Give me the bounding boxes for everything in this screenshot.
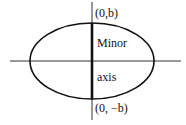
bottom-point-label: (0, −b) — [95, 101, 128, 115]
top-point-label: (0,b) — [95, 6, 118, 20]
axis-label: axis — [97, 70, 117, 84]
minor-label: Minor — [97, 36, 127, 50]
ellipse-diagram: (0,b) Minor axis (0, −b) — [0, 0, 186, 125]
